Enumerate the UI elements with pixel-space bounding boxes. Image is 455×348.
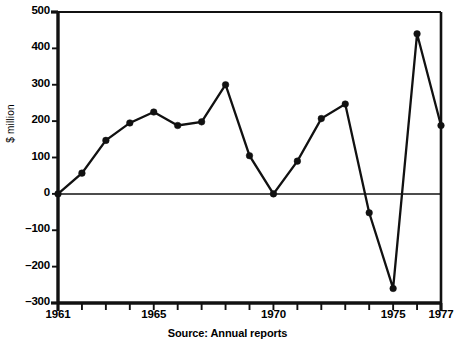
y-tick-label: 0 (10, 186, 50, 198)
x-tick-label: 1975 (381, 308, 406, 320)
x-tick-label: 1977 (429, 308, 454, 320)
x-tick-label: 1965 (141, 308, 166, 320)
y-tick-label: 200 (10, 113, 50, 125)
source-note: Source: Annual reports (0, 327, 455, 339)
x-tick-label: 1961 (46, 308, 71, 320)
y-tick-label: –300 (10, 295, 50, 307)
y-tick-label: –100 (10, 222, 50, 234)
y-tick-label: 300 (10, 77, 50, 89)
data-line (58, 34, 441, 289)
y-tick-label: –200 (10, 259, 50, 271)
chart-figure: $ million 5004003002001000–100–200–300 1… (0, 0, 455, 348)
line-plot-canvas (0, 0, 455, 348)
y-tick-label: 100 (10, 150, 50, 162)
y-tick-label: 500 (10, 4, 50, 16)
x-tick-label: 1970 (261, 308, 286, 320)
y-tick-label: 400 (10, 40, 50, 52)
data-point-markers (55, 31, 445, 292)
